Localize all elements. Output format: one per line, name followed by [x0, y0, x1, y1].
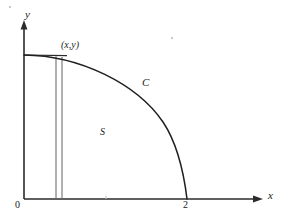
- y-axis: [21, 20, 28, 199]
- curve-label-c: C: [142, 77, 149, 88]
- x-axis: [24, 195, 263, 202]
- origin-label: 0: [15, 200, 20, 210]
- quarter-circle-figure: [0, 0, 282, 221]
- representative-strip: [56, 56, 62, 199]
- scan-speck: [9, 6, 11, 8]
- y-axis-arrowhead: [21, 20, 28, 30]
- curve-c-path: [24, 55, 187, 199]
- y-axis-label: y: [25, 9, 30, 20]
- region-label-s: S: [100, 127, 105, 137]
- x-axis-tick-label-2: 2: [183, 200, 188, 210]
- scan-speck: [171, 37, 173, 39]
- figure-container: y x 0 2 (x,y) C S: [0, 0, 282, 221]
- x-axis-label: x: [268, 190, 273, 201]
- point-coordinate-label: (x,y): [61, 40, 79, 50]
- x-axis-arrowhead: [253, 195, 263, 202]
